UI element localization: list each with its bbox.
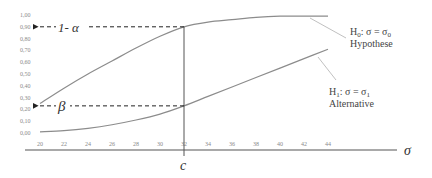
- y-tick-label: 0,10: [20, 118, 31, 124]
- power-function-chart: 0,000,100,200,300,400,500,600,700,800,90…: [0, 0, 432, 178]
- y-tick-label: 0,80: [20, 36, 31, 42]
- h0-leader-line: [310, 18, 346, 38]
- one-minus-alpha-label: 1- α: [58, 20, 80, 35]
- h0-sublabel: Hypothese: [350, 38, 393, 49]
- x-tick-label: 38: [253, 141, 259, 147]
- y-tick-label: 1,00: [20, 12, 31, 18]
- x-tick-label: 34: [205, 141, 211, 147]
- x-tick-label: 44: [325, 141, 331, 147]
- y-tick-label: 0,30: [20, 95, 31, 101]
- x-tick-label: 20: [37, 141, 43, 147]
- y-tick-label: 0,60: [20, 59, 31, 65]
- x-tick-label: 24: [85, 141, 91, 147]
- x-tick-label: 26: [109, 141, 115, 147]
- critical-value-label-c: c: [180, 158, 187, 173]
- y-tick-label: 0,70: [20, 47, 31, 53]
- x-tick-label: 22: [61, 141, 67, 147]
- x-tick-label: 40: [277, 141, 283, 147]
- y-tick-label: 0,90: [20, 24, 31, 30]
- h1-sublabel: Alternative: [329, 98, 375, 109]
- y-axis-tick-labels: 0,000,100,200,300,400,500,600,700,800,90…: [20, 12, 31, 136]
- y-tick-label: 0,20: [20, 106, 31, 112]
- x-tick-label: 36: [229, 141, 235, 147]
- y-tick-label: 0,50: [20, 71, 31, 77]
- x-tick-label: 42: [301, 141, 307, 147]
- y-tick-label: 0,40: [20, 83, 31, 89]
- h1-leader-line: [318, 57, 336, 80]
- beta-label: β: [57, 98, 66, 114]
- y-tick-label: 0,00: [20, 130, 31, 136]
- x-tick-label: 28: [133, 141, 139, 147]
- x-axis-label-sigma: σ: [404, 143, 412, 158]
- x-tick-label: 30: [157, 141, 163, 147]
